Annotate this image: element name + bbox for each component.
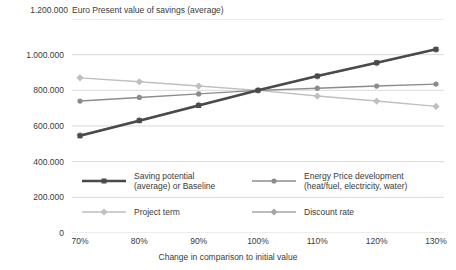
y-axis-tick-label: 1.000.000 xyxy=(26,50,64,60)
legend-label: Discount rate xyxy=(304,207,354,218)
legend-label-line1: Energy Price development xyxy=(304,171,407,182)
data-point-marker xyxy=(196,103,201,108)
data-point-marker xyxy=(77,98,82,103)
data-point-marker xyxy=(374,60,379,65)
y-axis-tick-label: 0 xyxy=(59,228,64,238)
x-axis-tick-label: 80% xyxy=(131,236,148,246)
data-point-marker xyxy=(315,86,320,91)
y-axis-tick-label: 800.000 xyxy=(33,85,64,95)
legend-label-line1: Saving potential xyxy=(134,171,215,182)
x-axis-tick-label: 130% xyxy=(425,236,447,246)
x-axis-tick-label: 90% xyxy=(190,236,207,246)
data-point-marker xyxy=(137,118,142,123)
legend-label-line1: Discount rate xyxy=(304,207,354,218)
data-point-marker xyxy=(100,208,107,215)
data-point-marker xyxy=(196,91,201,96)
legend-diamond-marker-icon xyxy=(250,206,298,218)
data-point-marker xyxy=(78,133,83,138)
data-point-marker xyxy=(256,88,261,93)
series-square xyxy=(78,47,439,138)
chart-title-row: 1.200.000 Euro Present value of savings … xyxy=(0,5,456,19)
data-point-marker xyxy=(137,95,142,100)
x-axis-tick-label: 120% xyxy=(366,236,388,246)
data-point-marker xyxy=(314,92,321,99)
y-axis-labels: 0200.000400.000600.000800.0001.000.000 xyxy=(0,19,68,233)
data-point-marker xyxy=(270,208,277,215)
data-point-marker xyxy=(76,74,83,81)
page-title: Euro Present value of savings (average) xyxy=(72,5,224,15)
data-point-marker xyxy=(195,82,202,89)
data-point-marker xyxy=(315,74,320,79)
legend-item[interactable]: Energy Price development(heat/fuel, elec… xyxy=(250,165,428,197)
x-axis-tick-label: 70% xyxy=(71,236,88,246)
legend-label-line1: Project term xyxy=(134,207,180,218)
legend-item[interactable]: Discount rate xyxy=(250,197,428,227)
legend-circle-marker-icon xyxy=(250,175,298,187)
sensitivity-line-chart: 1.200.000 Euro Present value of savings … xyxy=(0,0,456,270)
data-point-marker xyxy=(373,97,380,104)
legend-label-line2: (heat/fuel, electricity, water) xyxy=(304,181,407,192)
legend-label-line2: (average) or Baseline xyxy=(134,181,215,192)
data-point-marker xyxy=(433,81,438,86)
data-point-marker xyxy=(102,179,107,184)
data-point-marker xyxy=(136,78,143,85)
x-axis-tick-label: 100% xyxy=(247,236,269,246)
data-point-marker xyxy=(374,83,379,88)
data-point-marker xyxy=(271,178,276,183)
chart-legend: Saving potential(average) or BaselineEne… xyxy=(80,165,428,227)
y-axis-tick-label: 400.000 xyxy=(33,157,64,167)
x-axis-labels: 70%80%90%100%110%120%130% xyxy=(72,236,444,248)
legend-item[interactable]: Project term xyxy=(80,197,250,227)
legend-label: Saving potential(average) or Baseline xyxy=(134,171,215,192)
x-axis-tick-label: 110% xyxy=(307,236,328,246)
data-point-marker xyxy=(434,47,439,52)
legend-square-marker-icon xyxy=(80,175,128,187)
y-axis-tick-label-top: 1.200.000 xyxy=(0,5,68,15)
x-axis-title: Change in comparison to initial value xyxy=(0,252,456,262)
legend-label: Project term xyxy=(134,207,180,218)
y-axis-tick-label: 600.000 xyxy=(33,121,64,131)
legend-label: Energy Price development(heat/fuel, elec… xyxy=(304,171,407,192)
legend-item[interactable]: Saving potential(average) or Baseline xyxy=(80,165,250,197)
data-point-marker xyxy=(432,103,439,110)
legend-diamond-marker-icon xyxy=(80,206,128,218)
y-axis-tick-label: 200.000 xyxy=(33,192,64,202)
